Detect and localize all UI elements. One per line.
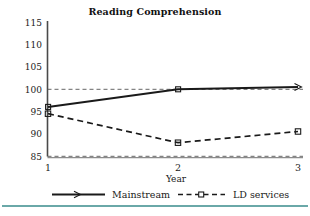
chart-container: Reading Comprehension 115 110 105 100 95… bbox=[0, 0, 310, 216]
ytick-label-85: 85 bbox=[31, 152, 43, 162]
legend-label-mainstream: Mainstream bbox=[112, 189, 170, 200]
ytick-label-90: 90 bbox=[31, 129, 43, 139]
ytick-label-110: 110 bbox=[25, 40, 42, 50]
series-line-ld-services bbox=[48, 114, 298, 143]
ytick-label-95: 95 bbox=[31, 107, 43, 117]
x-axis-title: Year bbox=[165, 174, 187, 184]
xtick-label-1: 1 bbox=[45, 162, 51, 173]
xtick-label-3: 3 bbox=[295, 162, 301, 173]
ytick-label-105: 105 bbox=[25, 62, 42, 72]
legend-swatch-ld-services-square-icon bbox=[199, 192, 204, 197]
series-line-mainstream bbox=[48, 87, 298, 107]
xtick-label-2: 2 bbox=[175, 162, 181, 173]
ytick-label-100: 100 bbox=[25, 85, 42, 95]
ytick-label-115: 115 bbox=[25, 18, 42, 28]
footer-rule bbox=[2, 205, 308, 207]
legend-label-ld-services: LD services bbox=[233, 189, 289, 200]
chart-plot-area: 115 110 105 100 95 90 85 1 2 3 Year Ma bbox=[0, 0, 310, 216]
